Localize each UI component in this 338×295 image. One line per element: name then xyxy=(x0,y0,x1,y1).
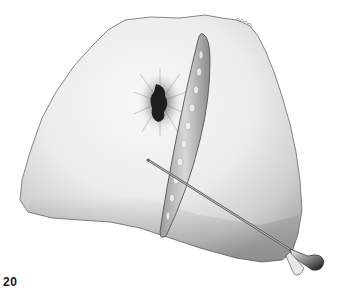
figure-number: 20 xyxy=(3,275,17,289)
illustration-canvas xyxy=(0,0,338,295)
probe-handle xyxy=(286,249,324,275)
scientific-illustration: 20 xyxy=(0,0,338,295)
